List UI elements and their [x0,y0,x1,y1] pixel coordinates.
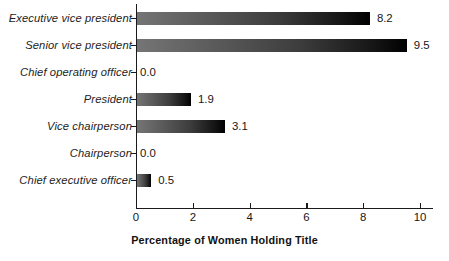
bar-value-label: 0.5 [158,167,174,194]
category-label: Chief executive officer [0,167,132,194]
chart-row: Chief executive officer0.5 [0,167,449,194]
bar-value-label: 9.5 [414,32,430,59]
bar-value-label: 0.0 [140,59,156,86]
bar [137,39,407,52]
y-axis-tick [131,180,136,181]
category-label: Chief operating officer [0,59,132,86]
y-axis-tick [131,72,136,73]
x-axis-title: Percentage of Women Holding Title [0,234,449,246]
chart-row: Vice chairperson3.1 [0,113,449,140]
x-axis-tick-label: 10 [400,211,440,223]
category-label: Executive vice president [0,5,132,32]
bar-fill [137,120,225,133]
y-axis-tick [131,18,136,19]
x-axis-tick-label: 6 [286,211,326,223]
bar [137,174,151,187]
x-axis-tick [250,203,251,209]
x-axis-tick-label: 4 [230,211,270,223]
chart-row: President1.9 [0,86,449,113]
category-label: Chairperson [0,140,132,167]
y-axis-tick [131,153,136,154]
x-axis-tick [306,203,307,209]
bar-value-label: 8.2 [377,5,393,32]
y-axis-tick [131,45,136,46]
y-axis-tick [131,99,136,100]
chart-row: Chief operating officer0.0 [0,59,449,86]
x-axis-tick [136,203,137,209]
bar-fill [137,12,370,25]
chart-row: Chairperson0.0 [0,140,449,167]
bar-fill [137,39,407,52]
category-label: President [0,86,132,113]
bar-value-label: 0.0 [140,140,156,167]
category-label: Senior vice president [0,32,132,59]
bar [137,120,225,133]
bar [137,12,370,25]
x-axis-tick [363,203,364,209]
bar-fill [137,174,151,187]
x-axis-line [136,208,433,209]
chart-plot-area: Executive vice president8.2Senior vice p… [0,0,449,205]
x-axis-tick-label: 0 [116,211,156,223]
y-axis-line [136,4,137,209]
bar-value-label: 3.1 [232,113,248,140]
y-axis-tick [131,126,136,127]
bar [137,93,191,106]
x-axis-tick [193,203,194,209]
chart-row: Executive vice president8.2 [0,5,449,32]
chart-row: Senior vice president9.5 [0,32,449,59]
category-label: Vice chairperson [0,113,132,140]
x-axis-tick [420,203,421,209]
bar-fill [137,93,191,106]
bar-value-label: 1.9 [198,86,214,113]
x-axis-tick-label: 2 [173,211,213,223]
x-axis-tick-label: 8 [343,211,383,223]
bar-chart: Executive vice president8.2Senior vice p… [0,0,449,261]
